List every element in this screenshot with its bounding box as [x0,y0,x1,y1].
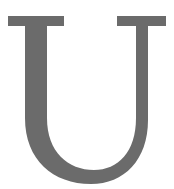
letter-u-glyph [0,0,174,189]
letter-u-icon [0,0,174,189]
